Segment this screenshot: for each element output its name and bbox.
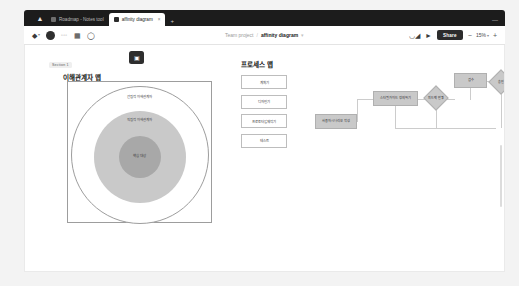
page-icon	[51, 17, 56, 22]
zoom-in-button[interactable]: +	[493, 32, 497, 39]
zoom-controls: − 15% ▾ +	[468, 32, 497, 39]
app-toolbar: ◆▾ ▫▫▫ ▦ ◯ Team project / affinity diagr…	[24, 26, 505, 45]
process-flow-diagram: 사용자 시나리오 작성 스타일가이드 정의하기 피드백 반영 검수 승인	[287, 73, 505, 153]
process-step[interactable]: 프로토타입 제작기	[241, 114, 287, 128]
flow-connector	[470, 88, 471, 100]
zoom-level-value: 15%	[476, 32, 486, 38]
section-1-header: Section 1 이해관계자 맵	[49, 52, 101, 82]
new-tab-button[interactable]: +	[165, 18, 179, 24]
canvas-vertical-scrollbar[interactable]	[500, 145, 502, 207]
zoom-out-button[interactable]: −	[468, 32, 472, 39]
process-step[interactable]: 계획기	[241, 75, 287, 89]
stakeholder-ring-inner[interactable]: 핵심 대상	[119, 136, 161, 178]
close-icon[interactable]: ×	[158, 17, 161, 22]
tool-group-label: ▫▫▫	[61, 32, 68, 38]
browser-tab-bar: ▲ Roadmap - Notes tool affinity diagram …	[24, 10, 505, 26]
flow-connector	[357, 99, 374, 100]
breadcrumb-separator: /	[257, 32, 258, 38]
flow-decision-node[interactable]: 피드백 반영	[423, 85, 448, 110]
flow-connector	[501, 91, 502, 128]
process-step[interactable]: 디자인기	[241, 95, 287, 109]
chevron-down-icon[interactable]: ▾	[301, 32, 304, 38]
process-step[interactable]: 테스트	[241, 134, 287, 148]
stakeholder-map-frame[interactable]: 간접적 이해관계자 직접적 이해관계자 핵심 대상	[67, 81, 212, 223]
file-icon	[114, 17, 119, 22]
flow-connector	[395, 106, 396, 128]
breadcrumb-project[interactable]: Team project	[225, 32, 254, 38]
flow-decision-node[interactable]: 승인	[488, 69, 505, 94]
chevron-down-icon[interactable]: ▾	[38, 33, 40, 37]
section-badge: Section 1	[49, 62, 72, 68]
flow-node[interactable]: 사용자 시나리오 작성	[315, 114, 357, 129]
flow-node[interactable]: 스타일가이드 정의하기	[373, 91, 418, 106]
browser-tab-affinity-diagram[interactable]: affinity diagram ×	[109, 13, 166, 26]
present-icon[interactable]: ►	[425, 32, 432, 39]
frame-icon[interactable]: ▦	[74, 32, 81, 39]
process-step-list: 계획기 디자인기 프로토타입 제작기 테스트	[241, 75, 287, 153]
flow-node[interactable]: 검수	[454, 73, 487, 88]
flow-connector	[357, 99, 358, 122]
browser-tab-label: Roadmap - Notes tool	[59, 17, 104, 22]
chevron-down-icon[interactable]: ▾	[487, 33, 489, 38]
minimize-icon[interactable]: —	[492, 17, 505, 23]
design-canvas[interactable]: Section 1 이해관계자 맵 ▣ 간접적 이해관계자 직접적 이해관계자 …	[24, 45, 505, 272]
section-2-header: 프로세스 맵	[241, 59, 273, 69]
zoom-level[interactable]: 15% ▾	[476, 32, 489, 38]
toolbar-right-group: ◡◢ ► Share − 15% ▾ +	[409, 30, 505, 40]
comment-icon[interactable]: ◯	[87, 32, 95, 39]
browser-tab-label: affinity diagram	[122, 17, 153, 22]
ring-label: 핵심 대상	[133, 153, 146, 178]
app-window: ▲ Roadmap - Notes tool affinity diagram …	[0, 0, 519, 286]
headphones-icon[interactable]: ◡◢	[409, 32, 420, 39]
share-button[interactable]: Share	[437, 30, 463, 40]
flow-node-label: 피드백 반영	[428, 96, 444, 100]
section-2-title: 프로세스 맵	[241, 59, 273, 69]
toolbar-left-group: ◆▾ ▫▫▫ ▦ ◯	[24, 31, 95, 40]
image-icon[interactable]: ▣	[129, 51, 144, 64]
flow-connector	[395, 128, 496, 129]
browser-tab-roadmap[interactable]: Roadmap - Notes tool	[46, 13, 109, 26]
breadcrumb-file[interactable]: affinity diagram	[261, 32, 298, 38]
avatar[interactable]	[46, 31, 55, 40]
figma-menu-icon[interactable]: ◆▾	[32, 32, 40, 39]
flow-node-label: 승인	[498, 80, 504, 84]
home-icon[interactable]: ▲	[34, 12, 46, 25]
